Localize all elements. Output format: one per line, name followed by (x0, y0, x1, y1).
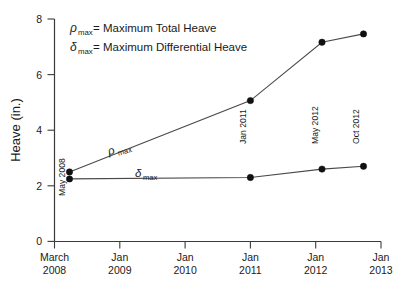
delta-max-marker-1 (247, 174, 253, 180)
rho-max-marker-1 (247, 97, 253, 103)
rho-max-curve-label: ρ max (105, 139, 133, 160)
point-annotation-may-2008: May 2008 (57, 158, 67, 196)
point-annotation-jan-2011: Jan 2011 (238, 109, 248, 144)
rho-max-marker-2 (319, 39, 325, 45)
legend-sub-rho: max (78, 28, 93, 37)
x-tick-label-5-line1: Jan (373, 251, 390, 263)
delta-max-marker-0 (66, 176, 72, 182)
x-tick-label-0-line1: March (40, 251, 69, 263)
heave-chart: 8 6 4 2 0 Heave (in.) March 2008 Jan 200… (0, 0, 399, 298)
rho-max-marker-0 (66, 169, 72, 175)
x-tick-label-3-line1: Jan (242, 251, 259, 263)
delta-max-marker-3 (360, 163, 366, 169)
y-axis-title: Heave (in.) (8, 98, 23, 162)
legend-text-rho: = Maximum Total Heave (93, 22, 216, 34)
chart-legend: ρ max = Maximum Total Heave δ max = Maxi… (69, 21, 247, 56)
x-tick-label-0-line2: 2008 (43, 264, 67, 276)
y-tick-label-4: 4 (36, 124, 42, 136)
legend-symbol-delta: δ (70, 40, 77, 54)
point-annotation-oct-2012: Oct 2012 (351, 109, 361, 144)
series-delta-max (66, 163, 366, 182)
x-tick-label-5-line2: 2013 (369, 264, 393, 276)
rho-max-curve-sub: max (117, 145, 133, 158)
y-tick-label-0: 0 (36, 235, 42, 247)
x-tick-label-4-line2: 2012 (304, 264, 328, 276)
y-axis (48, 19, 55, 242)
delta-max-curve-sub: max (143, 173, 158, 182)
legend-entry-delta-max: δ max = Maximum Differential Heave (70, 40, 247, 56)
x-tick-label-4-line1: Jan (307, 251, 324, 263)
rho-max-curve-symbol: ρ (105, 144, 116, 158)
delta-max-marker-2 (319, 166, 325, 172)
x-tick-label-2-line1: Jan (177, 251, 194, 263)
y-tick-label-6: 6 (36, 69, 42, 81)
delta-max-curve-label: δ max (135, 167, 158, 182)
legend-text-delta: = Maximum Differential Heave (93, 41, 247, 53)
legend-sub-delta: max (78, 47, 93, 56)
y-tick-label-8: 8 (36, 13, 42, 25)
delta-max-curve-symbol: δ (135, 167, 142, 179)
x-tick-label-2-line2: 2010 (173, 264, 197, 276)
x-tick-label-1-line1: Jan (111, 251, 128, 263)
legend-entry-rho-max: ρ max = Maximum Total Heave (69, 21, 216, 37)
chart-canvas: 8 6 4 2 0 Heave (in.) March 2008 Jan 200… (0, 0, 399, 298)
x-axis (55, 242, 382, 249)
x-tick-label-1-line2: 2009 (108, 264, 132, 276)
legend-symbol-rho: ρ (69, 21, 77, 35)
y-tick-label-2: 2 (36, 180, 42, 192)
rho-max-marker-3 (360, 31, 366, 37)
point-annotation-may-2012: May 2012 (310, 106, 320, 144)
x-tick-label-3-line2: 2011 (239, 264, 262, 276)
